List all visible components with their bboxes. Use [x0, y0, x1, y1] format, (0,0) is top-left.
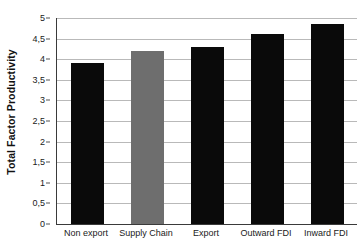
y-axis-title-label: Total Factor Productivity [5, 49, 17, 174]
x-axis-label: Inward FDI [297, 228, 355, 238]
y-tick-label: 3,5 [32, 75, 45, 85]
y-tick-mark [46, 203, 50, 204]
bar[interactable] [131, 51, 164, 224]
y-tick-label: 3 [40, 95, 45, 105]
x-axis-label: Supply Chain [117, 228, 175, 238]
y-tick-mark [46, 79, 50, 80]
y-tick-mark [46, 59, 50, 60]
y-axis-tick-labels: 54,543,532,521,510,50 [22, 18, 50, 224]
bar[interactable] [191, 47, 224, 224]
y-tick-mark [46, 182, 50, 183]
y-tick-mark [46, 121, 50, 122]
y-tick-mark [46, 18, 50, 19]
y-tick-label: 0,5 [32, 198, 45, 208]
bar[interactable] [311, 24, 344, 224]
y-tick-mark [46, 224, 50, 225]
y-tick-mark [46, 141, 50, 142]
bars-group [57, 18, 357, 224]
x-axis-category-labels: Non exportSupply ChainExportOutward FDII… [56, 228, 356, 244]
y-tick-mark [46, 162, 50, 163]
bar[interactable] [251, 34, 284, 224]
y-tick-label: 1,5 [32, 157, 45, 167]
x-axis-label: Export [177, 228, 235, 238]
y-tick-label: 2,5 [32, 116, 45, 126]
y-tick-label: 2 [40, 137, 45, 147]
y-tick-label: 0 [40, 219, 45, 229]
x-axis-label: Outward FDI [237, 228, 295, 238]
x-axis-label: Non export [57, 228, 115, 238]
y-tick-label: 1 [40, 178, 45, 188]
plot-area [56, 18, 357, 225]
y-tick-mark [46, 38, 50, 39]
bar[interactable] [71, 63, 104, 224]
y-tick-mark [46, 100, 50, 101]
y-tick-label: 4,5 [32, 34, 45, 44]
y-axis-title: Total Factor Productivity [0, 0, 22, 224]
bar-chart: Total Factor Productivity 54,543,532,521… [0, 0, 361, 251]
y-tick-label: 4 [40, 54, 45, 64]
y-tick-label: 5 [40, 13, 45, 23]
